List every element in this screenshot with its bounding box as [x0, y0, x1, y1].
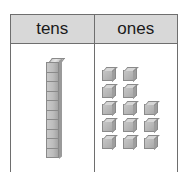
unit-cube [123, 121, 134, 132]
column-header-ones: ones [94, 15, 177, 44]
tens-rod-segment [47, 73, 58, 83]
tens-rod-segment [47, 111, 58, 121]
tens-rod-segment [47, 130, 58, 140]
place-value-chart: tens ones [10, 14, 178, 172]
tens-rod-top-face [49, 58, 65, 62]
column-header-tens: tens [11, 15, 94, 44]
unit-cube [102, 70, 113, 81]
unit-cube [123, 104, 134, 115]
tens-rod-segment [47, 92, 58, 102]
table-row [11, 44, 177, 173]
unit-cube [123, 70, 134, 81]
cell-ones [94, 44, 177, 173]
tens-rod-segment [47, 139, 58, 149]
tens-rod-segment [47, 120, 58, 130]
tens-blocks-area [11, 44, 94, 172]
unit-cube [123, 87, 134, 98]
header-row: tens ones [11, 15, 177, 44]
ones-cube-row [102, 84, 170, 98]
unit-cube [102, 87, 113, 98]
ones-blocks-area [95, 44, 178, 172]
place-value-table: tens ones [11, 15, 177, 172]
unit-cube [102, 121, 113, 132]
tens-rod-segment [47, 63, 58, 73]
unit-cube [144, 104, 155, 115]
unit-cube [144, 121, 155, 132]
unit-cube [102, 104, 113, 115]
ones-cube-row [102, 101, 170, 115]
tens-rod [46, 58, 59, 158]
cell-tens [11, 44, 94, 173]
table-body [11, 44, 177, 173]
tens-rod-segment [47, 82, 58, 92]
ones-cube-grid [102, 67, 170, 149]
unit-cube [144, 138, 155, 149]
unit-cube [102, 138, 113, 149]
tens-rod-body [46, 62, 59, 158]
tens-rod-segment [47, 101, 58, 111]
ones-cube-row [102, 135, 170, 149]
unit-cube [123, 138, 134, 149]
ones-cube-row [102, 67, 170, 81]
table-header: tens ones [11, 15, 177, 44]
ones-cube-row [102, 118, 170, 132]
tens-rod-side-face [59, 58, 62, 159]
tens-rod-segment [47, 149, 58, 158]
